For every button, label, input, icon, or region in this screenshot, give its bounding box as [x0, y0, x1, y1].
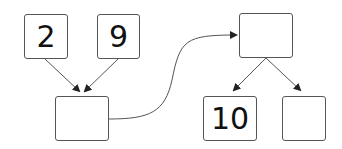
part-box-10: 10: [203, 96, 257, 141]
input-box-2-label: 2: [36, 22, 55, 52]
whole-box: [239, 13, 293, 58]
sum-box: [55, 96, 109, 141]
arrow-whole-to-10: [234, 58, 266, 90]
arrow-2-to-sum: [45, 59, 79, 91]
input-box-9: 9: [97, 14, 140, 59]
arrow-9-to-sum: [85, 59, 118, 91]
input-box-9-label: 9: [109, 22, 128, 52]
input-box-2: 2: [24, 14, 68, 59]
arrow-whole-to-part-b: [266, 58, 300, 90]
part-box-empty: [282, 96, 326, 141]
part-box-10-label: 10: [211, 104, 249, 134]
